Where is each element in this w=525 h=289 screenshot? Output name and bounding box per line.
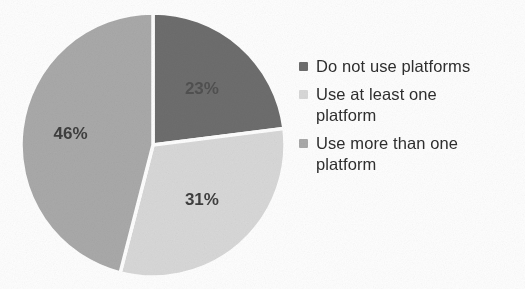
legend-swatch-icon [299,90,308,99]
legend-item-label: Use at least one platform [316,84,496,126]
legend-item-use-at-least-one-platform[interactable]: Use at least one platform [299,84,521,126]
pie-slice-label-do-not-use: 23% [185,79,219,98]
pie-chart-plot-area: 23%31%46% [0,0,300,289]
pie-slice-group [21,13,285,277]
pie-chart-figure: 23%31%46% Do not use platforms Use at le… [0,0,525,289]
pie-chart-svg: 23%31%46% [0,0,300,289]
legend-item-do-not-use-platforms[interactable]: Do not use platforms [299,56,521,77]
legend-item-label: Do not use platforms [316,56,470,77]
pie-slice-label-use-at-least-one: 31% [185,190,219,209]
chart-legend: Do not use platforms Use at least one pl… [299,56,521,182]
legend-swatch-icon [299,139,308,148]
pie-slice-label-use-more-than-one: 46% [53,124,87,143]
legend-item-label: Use more than one platform [316,133,496,175]
legend-item-use-more-than-one-platform[interactable]: Use more than one platform [299,133,521,175]
legend-swatch-icon [299,62,308,71]
